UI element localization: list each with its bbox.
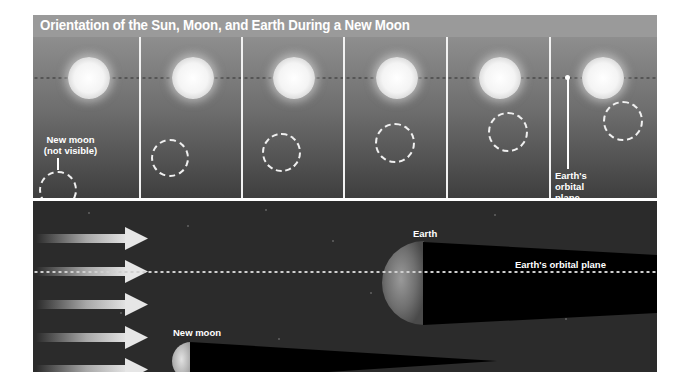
moon-position-outline [488, 112, 528, 152]
moon-icon [172, 342, 191, 372]
sun-icon [376, 57, 418, 99]
callout-line [57, 158, 59, 170]
panel-divider [139, 37, 141, 198]
orbital-plane-dotted-line [33, 271, 657, 273]
earth-shadow [423, 242, 657, 325]
sun-icon [479, 57, 521, 99]
new-moon-label: New moon [173, 327, 221, 338]
earth-label: Earth [413, 228, 437, 239]
sunlight-arrow-icon [36, 326, 148, 349]
moon-position-outline [603, 101, 643, 141]
panel-divider [343, 37, 345, 198]
sun-icon [68, 57, 110, 99]
moon-shadow-cone [190, 342, 497, 372]
moon-position-outline [151, 139, 189, 177]
panel-divider [549, 37, 551, 198]
figure-title: Orientation of the Sun, Moon, and Earth … [40, 17, 410, 33]
sunlight-arrow-icon [36, 358, 148, 372]
orbital-plane-dotted-line [33, 77, 657, 79]
sky-view-panels: New moon (not visible) Earth's orbital p… [33, 37, 657, 198]
panel-divider [241, 37, 243, 198]
sun-icon [273, 57, 315, 99]
side-view-graphics [33, 201, 657, 372]
new-moon-label: New moon (not visible) [43, 134, 98, 156]
sunlight-arrow-icon [36, 293, 148, 316]
panel-divider [446, 37, 448, 198]
callout-line [567, 79, 569, 169]
sunlight-arrows [36, 227, 148, 372]
orbital-plane-label: Earth's orbital plane [515, 259, 606, 270]
side-view-panel: Earth Earth's orbital plane New moon [33, 201, 657, 372]
moon-position-outline [375, 123, 415, 163]
new-moon-diagram: Orientation of the Sun, Moon, and Earth … [33, 15, 657, 372]
sun-icon [582, 57, 624, 99]
earth-icon [382, 241, 424, 325]
moon-position-outline [262, 133, 301, 172]
sunlight-arrow-icon [36, 227, 148, 250]
sun-icon [172, 57, 214, 99]
title-bar: Orientation of the Sun, Moon, and Earth … [33, 15, 657, 37]
